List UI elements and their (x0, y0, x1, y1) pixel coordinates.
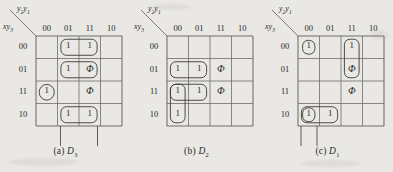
kmap-b: y2y1xy3000111100001111011Φ11Φ1(b) D2 (131, 0, 262, 172)
column-header-1: 01 (189, 23, 211, 33)
row-header-0: 00 (145, 41, 163, 51)
column-header-0: 00 (298, 23, 320, 33)
cell-3-2: 1 (80, 108, 100, 118)
axis-label-columns: y2y1 (279, 4, 292, 15)
cell-0-2: 1 (80, 40, 100, 50)
cell-1-1: 1 (58, 63, 78, 73)
caption-prefix: (a) (53, 146, 64, 156)
row-header-3: 10 (276, 109, 294, 119)
cell-0-1: 1 (58, 40, 78, 50)
axis-label-columns: y2y1 (17, 4, 30, 15)
cell-2-2: Φ (342, 85, 362, 96)
column-header-2: 11 (210, 23, 232, 33)
cell-1-1: 1 (189, 63, 209, 73)
column-header-3: 10 (101, 23, 123, 33)
cell-2-2: Φ (80, 85, 100, 96)
column-header-2: 11 (79, 23, 101, 33)
caption-subscript: 3 (74, 151, 77, 158)
cell-3-0: 1 (168, 108, 188, 118)
caption-b: (b) D2 (131, 146, 262, 158)
cell-2-0: 1 (37, 85, 57, 95)
row-header-2: 11 (276, 86, 294, 96)
caption-subscript: 1 (336, 151, 339, 158)
row-header-1: 01 (14, 64, 32, 74)
caption-subscript: 2 (205, 151, 208, 158)
caption-c: (c) D1 (262, 146, 393, 158)
row-header-3: 10 (145, 109, 163, 119)
cell-3-0: 1 (299, 108, 319, 118)
cell-0-0: 1 (299, 40, 319, 50)
kmap-figure: y2y1xy30001111000011110111Φ1Φ11(a) D3y2y… (0, 0, 393, 172)
axis-label-columns: y2y1 (148, 4, 161, 15)
column-header-0: 00 (167, 23, 189, 33)
cell-1-0: 1 (168, 63, 188, 73)
caption-a: (a) D3 (0, 146, 131, 158)
column-header-2: 11 (341, 23, 363, 33)
row-header-1: 01 (145, 64, 163, 74)
cell-0-2: 1 (342, 40, 362, 50)
caption-prefix: (b) (184, 146, 196, 156)
cell-2-2: Φ (211, 85, 231, 96)
axis-label-rows: xy3 (134, 22, 144, 33)
row-header-1: 01 (276, 64, 294, 74)
row-header-2: 11 (14, 86, 32, 96)
row-header-3: 10 (14, 109, 32, 119)
row-header-2: 11 (145, 86, 163, 96)
cell-3-1: 1 (320, 108, 340, 118)
row-header-0: 00 (14, 41, 32, 51)
axis-label-rows: xy3 (265, 22, 275, 33)
row-header-0: 00 (276, 41, 294, 51)
column-header-1: 01 (320, 23, 342, 33)
cell-1-2: Φ (342, 63, 362, 74)
cell-3-1: 1 (58, 108, 78, 118)
axis-label-rows: xy3 (3, 22, 13, 33)
cell-1-2: Φ (80, 63, 100, 74)
kmap-a: y2y1xy30001111000011110111Φ1Φ11(a) D3 (0, 0, 131, 172)
caption-prefix: (c) (315, 146, 326, 156)
kmap-c: y2y1xy3000111100001111011ΦΦ11(c) D1 (262, 0, 393, 172)
column-header-3: 10 (363, 23, 385, 33)
cell-2-0: 1 (168, 85, 188, 95)
cell-2-1: 1 (189, 85, 209, 95)
column-header-0: 00 (36, 23, 58, 33)
column-header-1: 01 (58, 23, 80, 33)
column-header-3: 10 (232, 23, 254, 33)
cell-1-2: Φ (211, 63, 231, 74)
